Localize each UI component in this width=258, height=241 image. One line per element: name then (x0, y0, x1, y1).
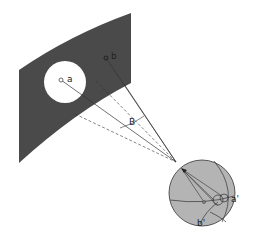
white-circle-region (44, 61, 86, 103)
label-a-prime: a' (231, 194, 239, 204)
diagram-canvas: a b B a' b' (0, 0, 258, 241)
label-b: b (111, 51, 117, 61)
label-angle-B: B (129, 117, 135, 127)
point-a (59, 78, 63, 82)
sphere (169, 160, 235, 226)
label-b-prime: b' (197, 218, 205, 228)
label-a: a (67, 74, 73, 84)
